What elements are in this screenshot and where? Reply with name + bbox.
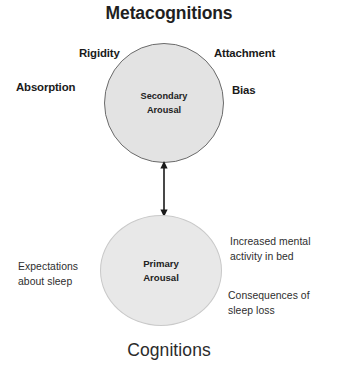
double-headed-arrow-connector xyxy=(150,159,178,219)
node-secondary-arousal: Secondary Arousal xyxy=(104,43,224,163)
metacognition-cognition-diagram: Metacognitions Rigidity Attachment Absor… xyxy=(0,0,338,377)
page-title-metacognitions: Metacognitions xyxy=(0,3,338,24)
label-bias: Bias xyxy=(232,84,255,96)
page-title-cognitions: Cognitions xyxy=(0,340,338,361)
label-consequences-of-sleep-loss: Consequences of sleep loss xyxy=(228,288,310,318)
label-consequences-line1: Consequences of xyxy=(228,288,310,303)
node-secondary-arousal-line2: Arousal xyxy=(147,103,181,117)
label-consequences-line2: sleep loss xyxy=(228,303,310,318)
label-absorption: Absorption xyxy=(16,81,75,93)
label-expectations-line2: about sleep xyxy=(18,274,78,289)
node-primary-arousal-line1: Primary xyxy=(143,257,179,271)
label-increased-line2: activity in bed xyxy=(230,249,311,264)
node-primary-arousal-line2: Arousal xyxy=(143,271,179,285)
node-primary-arousal: Primary Arousal xyxy=(100,215,222,326)
label-increased-mental-activity: Increased mental activity in bed xyxy=(230,234,311,264)
node-secondary-arousal-line1: Secondary xyxy=(141,89,188,103)
label-expectations-about-sleep: Expectations about sleep xyxy=(18,259,78,289)
label-increased-line1: Increased mental xyxy=(230,234,311,249)
label-rigidity: Rigidity xyxy=(79,47,120,59)
label-attachment: Attachment xyxy=(214,47,275,59)
label-expectations-line1: Expectations xyxy=(18,259,78,274)
